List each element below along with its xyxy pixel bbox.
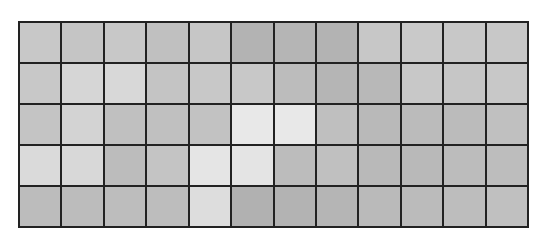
grid-cell-r0-c1 — [62, 23, 102, 62]
grid-cell-r2-c11 — [487, 105, 527, 144]
grid-cell-r3-c10 — [444, 146, 484, 185]
grid-cell-r2-c8 — [359, 105, 399, 144]
grid-cell-r3-c4 — [190, 146, 230, 185]
grid-cell-r2-c0 — [20, 105, 60, 144]
grid-cell-r1-c10 — [444, 64, 484, 103]
grid-cell-r4-c11 — [487, 187, 527, 226]
grid-cell-r1-c0 — [20, 64, 60, 103]
grid-cell-r2-c1 — [62, 105, 102, 144]
grid-cell-r2-c6 — [275, 105, 315, 144]
grid-cell-r2-c10 — [444, 105, 484, 144]
grid-cell-r0-c11 — [487, 23, 527, 62]
grid-cell-r1-c3 — [147, 64, 187, 103]
grid-cell-r3-c11 — [487, 146, 527, 185]
grid-cell-r1-c4 — [190, 64, 230, 103]
grid-cell-r0-c5 — [232, 23, 272, 62]
grid-cell-r2-c2 — [105, 105, 145, 144]
grid-cell-r3-c5 — [232, 146, 272, 185]
grid-cell-r4-c1 — [62, 187, 102, 226]
grid-cell-r0-c8 — [359, 23, 399, 62]
grid-cell-r1-c11 — [487, 64, 527, 103]
grid-cell-r4-c7 — [317, 187, 357, 226]
grid-cell-r1-c1 — [62, 64, 102, 103]
grid-cell-r4-c0 — [20, 187, 60, 226]
grid-cell-r2-c7 — [317, 105, 357, 144]
grid-cell-r0-c0 — [20, 23, 60, 62]
grid-cell-r2-c5 — [232, 105, 272, 144]
grid-cell-r1-c8 — [359, 64, 399, 103]
grid-cell-r1-c9 — [402, 64, 442, 103]
grid-cell-r4-c4 — [190, 187, 230, 226]
grid-cell-r4-c6 — [275, 187, 315, 226]
grid-cell-r0-c10 — [444, 23, 484, 62]
grid-cell-r1-c7 — [317, 64, 357, 103]
grid-cell-r2-c3 — [147, 105, 187, 144]
grid-cell-r3-c7 — [317, 146, 357, 185]
grid-cell-r3-c9 — [402, 146, 442, 185]
grid-cell-r2-c9 — [402, 105, 442, 144]
grid-cell-r3-c0 — [20, 146, 60, 185]
grid-cell-r4-c3 — [147, 187, 187, 226]
grid-cell-r0-c7 — [317, 23, 357, 62]
grid-cell-r3-c3 — [147, 146, 187, 185]
grid-cell-r3-c8 — [359, 146, 399, 185]
grid-cell-r3-c1 — [62, 146, 102, 185]
grid-cell-r2-c4 — [190, 105, 230, 144]
grid-cell-r0-c2 — [105, 23, 145, 62]
grid-cell-r0-c3 — [147, 23, 187, 62]
grid-cell-r4-c2 — [105, 187, 145, 226]
grayscale-grid — [18, 21, 529, 228]
grid-cell-r4-c8 — [359, 187, 399, 226]
grid-cell-r4-c5 — [232, 187, 272, 226]
grid-cell-r1-c6 — [275, 64, 315, 103]
grid-cell-r0-c4 — [190, 23, 230, 62]
grid-cell-r3-c2 — [105, 146, 145, 185]
grid-cell-r1-c5 — [232, 64, 272, 103]
grid-cell-r4-c9 — [402, 187, 442, 226]
grid-cell-r3-c6 — [275, 146, 315, 185]
grid-cell-r0-c9 — [402, 23, 442, 62]
grid-cell-r4-c10 — [444, 187, 484, 226]
grid-cell-r1-c2 — [105, 64, 145, 103]
grid-cell-r0-c6 — [275, 23, 315, 62]
